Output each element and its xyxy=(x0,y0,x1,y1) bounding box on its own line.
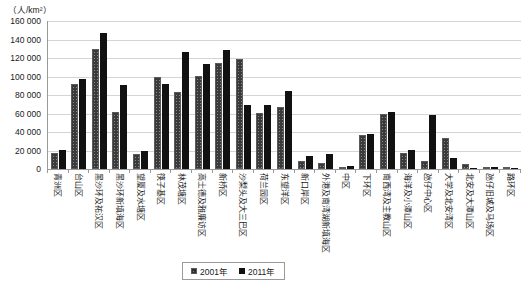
bar-2011 xyxy=(429,115,436,169)
x-axis-label: 沙梨头及大三巴区 xyxy=(238,173,246,237)
x-axis-label: 荷兰园区 xyxy=(259,173,267,205)
population-density-bar-chart: （人/km²） 160 000140 000120 000100 00080 0… xyxy=(0,0,526,295)
x-axis-label: 南西湾及主教山区 xyxy=(382,173,390,237)
bar-2011 xyxy=(408,150,415,169)
x-axis-label: 黑沙环新填海区 xyxy=(115,173,123,229)
bar-2001 xyxy=(154,77,161,170)
x-axis-label: 东望洋区 xyxy=(279,173,287,205)
bar-2001 xyxy=(195,76,202,169)
bar-group xyxy=(151,21,172,169)
bar-group xyxy=(336,21,357,169)
x-axis-label: 路环区 xyxy=(506,173,514,197)
bar-2011 xyxy=(162,84,169,169)
bar-2011 xyxy=(244,105,251,169)
y-axis-tick-label: 40 000 xyxy=(15,128,41,137)
bar-group xyxy=(500,21,521,169)
y-axis-tick-label: 120 000 xyxy=(10,54,41,63)
bar-2011 xyxy=(182,52,189,169)
hatched-gray-swatch xyxy=(191,268,197,274)
bar-2011 xyxy=(450,158,457,169)
bar-2001 xyxy=(71,84,78,169)
bar-group xyxy=(295,21,316,169)
x-axis-label: 海洋及小潭山区 xyxy=(403,173,411,229)
bar-2001 xyxy=(51,153,58,169)
bar-2001 xyxy=(298,161,305,169)
x-axis-label: 氹仔旧城及马场区 xyxy=(485,173,493,237)
y-axis-tick-label: 100 000 xyxy=(10,72,41,81)
bar-2011 xyxy=(326,154,333,169)
bar-group xyxy=(377,21,398,169)
x-axis-category-labels: 青洲区台山区黑沙环及祐汉区黑沙环新填海区望厦及水塘区筷子基区林茂塘区高士德及雅廉… xyxy=(47,173,520,253)
legend-item-2001: 2001年 xyxy=(191,265,228,277)
bar-2011 xyxy=(141,151,148,169)
legend-label-2011: 2011年 xyxy=(248,265,275,277)
bar-2011 xyxy=(100,33,107,169)
bar-groups xyxy=(48,21,521,169)
x-axis-label: 氹仔中心区 xyxy=(423,173,431,213)
bar-group xyxy=(48,21,69,169)
bar-group xyxy=(274,21,295,169)
bar-2011 xyxy=(264,105,271,169)
y-axis-tick-label: 160 000 xyxy=(10,17,41,26)
solid-black-swatch xyxy=(239,268,245,274)
x-axis-label: 大学及北安湾区 xyxy=(444,173,452,229)
bar-group xyxy=(439,21,460,169)
x-axis-label: 望厦及水塘区 xyxy=(135,173,143,221)
bar-2011 xyxy=(306,156,313,169)
x-axis-label: 筷子基区 xyxy=(156,173,164,205)
bar-2001 xyxy=(174,92,181,169)
bar-2001 xyxy=(442,138,449,169)
bar-group xyxy=(418,21,439,169)
bar-2001 xyxy=(277,107,284,169)
bar-group xyxy=(233,21,254,169)
bar-2001 xyxy=(215,63,222,169)
y-axis-tick-labels: 160 000140 000120 000100 00080 00060 000… xyxy=(0,21,45,169)
bar-group xyxy=(171,21,192,169)
bar-2001 xyxy=(92,49,99,169)
bar-group xyxy=(69,21,90,169)
y-axis-tick-label: 0 xyxy=(36,165,41,174)
y-axis-tick-label: 80 000 xyxy=(15,91,41,100)
bar-group xyxy=(254,21,275,169)
bar-2001 xyxy=(400,153,407,169)
bar-2011 xyxy=(79,79,86,169)
bar-2011 xyxy=(120,85,127,169)
x-axis-label: 中区 xyxy=(341,173,349,189)
x-axis-label: 高士德及雅廉访区 xyxy=(197,173,205,237)
bar-2011 xyxy=(223,50,230,169)
x-axis-label: 外港及南湾湖新填海区 xyxy=(320,173,328,253)
bar-2011 xyxy=(203,64,210,169)
x-axis-label: 黑沙环及祐汉区 xyxy=(94,173,102,229)
bar-group xyxy=(89,21,110,169)
x-axis-tick xyxy=(520,169,521,173)
bar-group xyxy=(130,21,151,169)
bar-2011 xyxy=(285,91,292,169)
y-axis-tick-label: 60 000 xyxy=(15,109,41,118)
bar-2011 xyxy=(59,150,66,169)
y-axis-unit-caption: （人/km²） xyxy=(8,3,52,15)
bar-2011 xyxy=(388,112,395,169)
x-axis-label: 新桥区 xyxy=(218,173,226,197)
bar-group xyxy=(356,21,377,169)
bar-2001 xyxy=(133,154,140,169)
bar-group xyxy=(459,21,480,169)
legend-label-2001: 2001年 xyxy=(200,265,228,277)
x-axis-label: 北安及大潭山区 xyxy=(464,173,472,229)
bar-group xyxy=(315,21,336,169)
bar-group xyxy=(398,21,419,169)
bar-group xyxy=(192,21,213,169)
bar-2001 xyxy=(112,112,119,169)
x-axis-label: 林茂塘区 xyxy=(177,173,185,205)
x-axis-label: 下环区 xyxy=(362,173,370,197)
plot-area xyxy=(47,21,521,170)
bar-2001 xyxy=(380,114,387,169)
bar-2011 xyxy=(367,134,374,169)
legend-item-2011: 2011年 xyxy=(239,265,275,277)
bar-group xyxy=(480,21,501,169)
bar-2001 xyxy=(359,135,366,169)
x-axis-label: 台山区 xyxy=(74,173,82,197)
bar-2001 xyxy=(421,161,428,169)
chart-legend: 2001年 2011年 xyxy=(182,262,285,280)
bar-group xyxy=(213,21,234,169)
x-axis-label: 青洲区 xyxy=(53,173,61,197)
